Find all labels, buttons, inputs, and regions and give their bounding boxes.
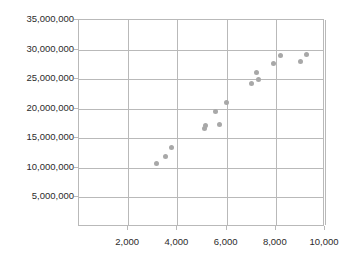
y-axis-tick-label: 35,000,000 xyxy=(2,14,74,24)
gridline-horizontal xyxy=(79,138,323,139)
y-axis-tick-label: 30,000,000 xyxy=(2,44,74,54)
data-point xyxy=(224,100,229,105)
plot-area xyxy=(78,19,324,226)
y-axis-tick xyxy=(74,167,78,168)
gridline-vertical xyxy=(177,20,178,225)
y-axis-tick xyxy=(74,49,78,50)
data-point xyxy=(249,81,254,86)
data-point xyxy=(163,154,168,159)
gridline-vertical xyxy=(325,20,326,225)
gridline-horizontal xyxy=(79,50,323,51)
x-axis-tick xyxy=(226,226,227,230)
y-axis-tick-label: 10,000,000 xyxy=(2,162,74,172)
data-point xyxy=(256,77,261,82)
y-axis-ticks xyxy=(74,0,79,261)
data-point xyxy=(298,59,303,64)
data-point xyxy=(254,70,259,75)
data-point xyxy=(217,122,222,127)
y-axis-tick xyxy=(74,137,78,138)
x-axis-tick-label: 10,000 xyxy=(294,236,354,247)
data-point xyxy=(278,53,283,58)
x-axis-ticks xyxy=(0,226,359,231)
x-axis-tick xyxy=(127,226,128,230)
data-point xyxy=(304,52,309,57)
y-axis-tick xyxy=(74,196,78,197)
y-axis-tick-label: 5,000,000 xyxy=(2,191,74,201)
y-axis-tick-label: 25,000,000 xyxy=(2,73,74,83)
data-point xyxy=(154,161,159,166)
x-axis-tick xyxy=(324,226,325,230)
y-axis-tick xyxy=(74,78,78,79)
gridline-horizontal xyxy=(79,168,323,169)
gridline-vertical xyxy=(128,20,129,225)
y-axis-tick-label: 20,000,000 xyxy=(2,103,74,113)
gridline-vertical xyxy=(227,20,228,225)
gridline-horizontal xyxy=(79,79,323,80)
x-axis-tick xyxy=(176,226,177,230)
gridline-horizontal xyxy=(79,197,323,198)
data-point xyxy=(169,145,174,150)
scatter-chart: 5,000,00010,000,00015,000,00020,000,0002… xyxy=(0,0,359,261)
y-axis-tick xyxy=(74,19,78,20)
gridline-vertical xyxy=(276,20,277,225)
data-point xyxy=(203,123,208,128)
y-axis-tick xyxy=(74,108,78,109)
data-point xyxy=(213,109,218,114)
y-axis-tick-label: 15,000,000 xyxy=(2,132,74,142)
x-axis-tick-labels: 2,0004,0006,0008,00010,000 xyxy=(0,236,359,252)
gridline-horizontal xyxy=(79,109,323,110)
x-axis-tick xyxy=(275,226,276,230)
y-axis-tick-labels: 5,000,00010,000,00015,000,00020,000,0002… xyxy=(0,0,74,261)
